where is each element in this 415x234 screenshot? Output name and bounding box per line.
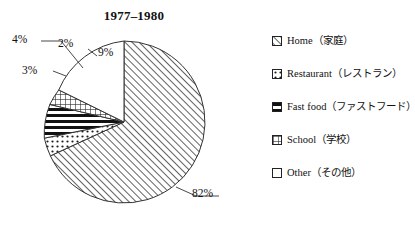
pie-label-other: 9% xyxy=(98,46,113,58)
pie-label-fast-food: 4% xyxy=(12,33,27,45)
legend-item-home[interactable]: Home（家庭） xyxy=(272,34,415,48)
chart-title: 1977–1980 xyxy=(0,8,268,24)
legend-item-school[interactable]: School（学校） xyxy=(272,133,415,147)
dots-swatch-icon xyxy=(272,69,282,79)
blank-swatch-icon xyxy=(272,168,282,178)
pie-plot-area: 82% 3% 4% 2% 9% xyxy=(0,24,268,234)
legend-label-other: Other（その他） xyxy=(287,167,361,179)
legend-label-fast-food: Fast food（ファストフード） xyxy=(287,101,415,113)
legend-item-restaurant[interactable]: Restaurant（レストラン） xyxy=(272,67,415,81)
legend-label-restaurant: Restaurant（レストラン） xyxy=(287,68,402,80)
legend-item-fast-food[interactable]: Fast food（ファストフード） xyxy=(272,100,415,114)
pie-chart-figure: 1977–1980 xyxy=(0,0,415,234)
horizontal-lines-swatch-icon xyxy=(272,102,282,112)
pie-label-home: 82% xyxy=(192,187,213,199)
pie-label-restaurant: 3% xyxy=(22,64,37,76)
legend: Home（家庭） Restaurant（レストラン） Fast food（ファス… xyxy=(272,34,415,199)
cross-hatch-swatch-icon xyxy=(272,135,282,145)
legend-item-other[interactable]: Other（その他） xyxy=(272,166,415,180)
pie-label-school: 2% xyxy=(58,37,73,49)
pie-svg xyxy=(0,24,268,234)
leader-line-restaurant xyxy=(53,71,66,76)
diagonal-hatch-swatch-icon xyxy=(272,36,282,46)
legend-label-home: Home（家庭） xyxy=(287,35,353,47)
legend-label-school: School（学校） xyxy=(287,134,356,146)
